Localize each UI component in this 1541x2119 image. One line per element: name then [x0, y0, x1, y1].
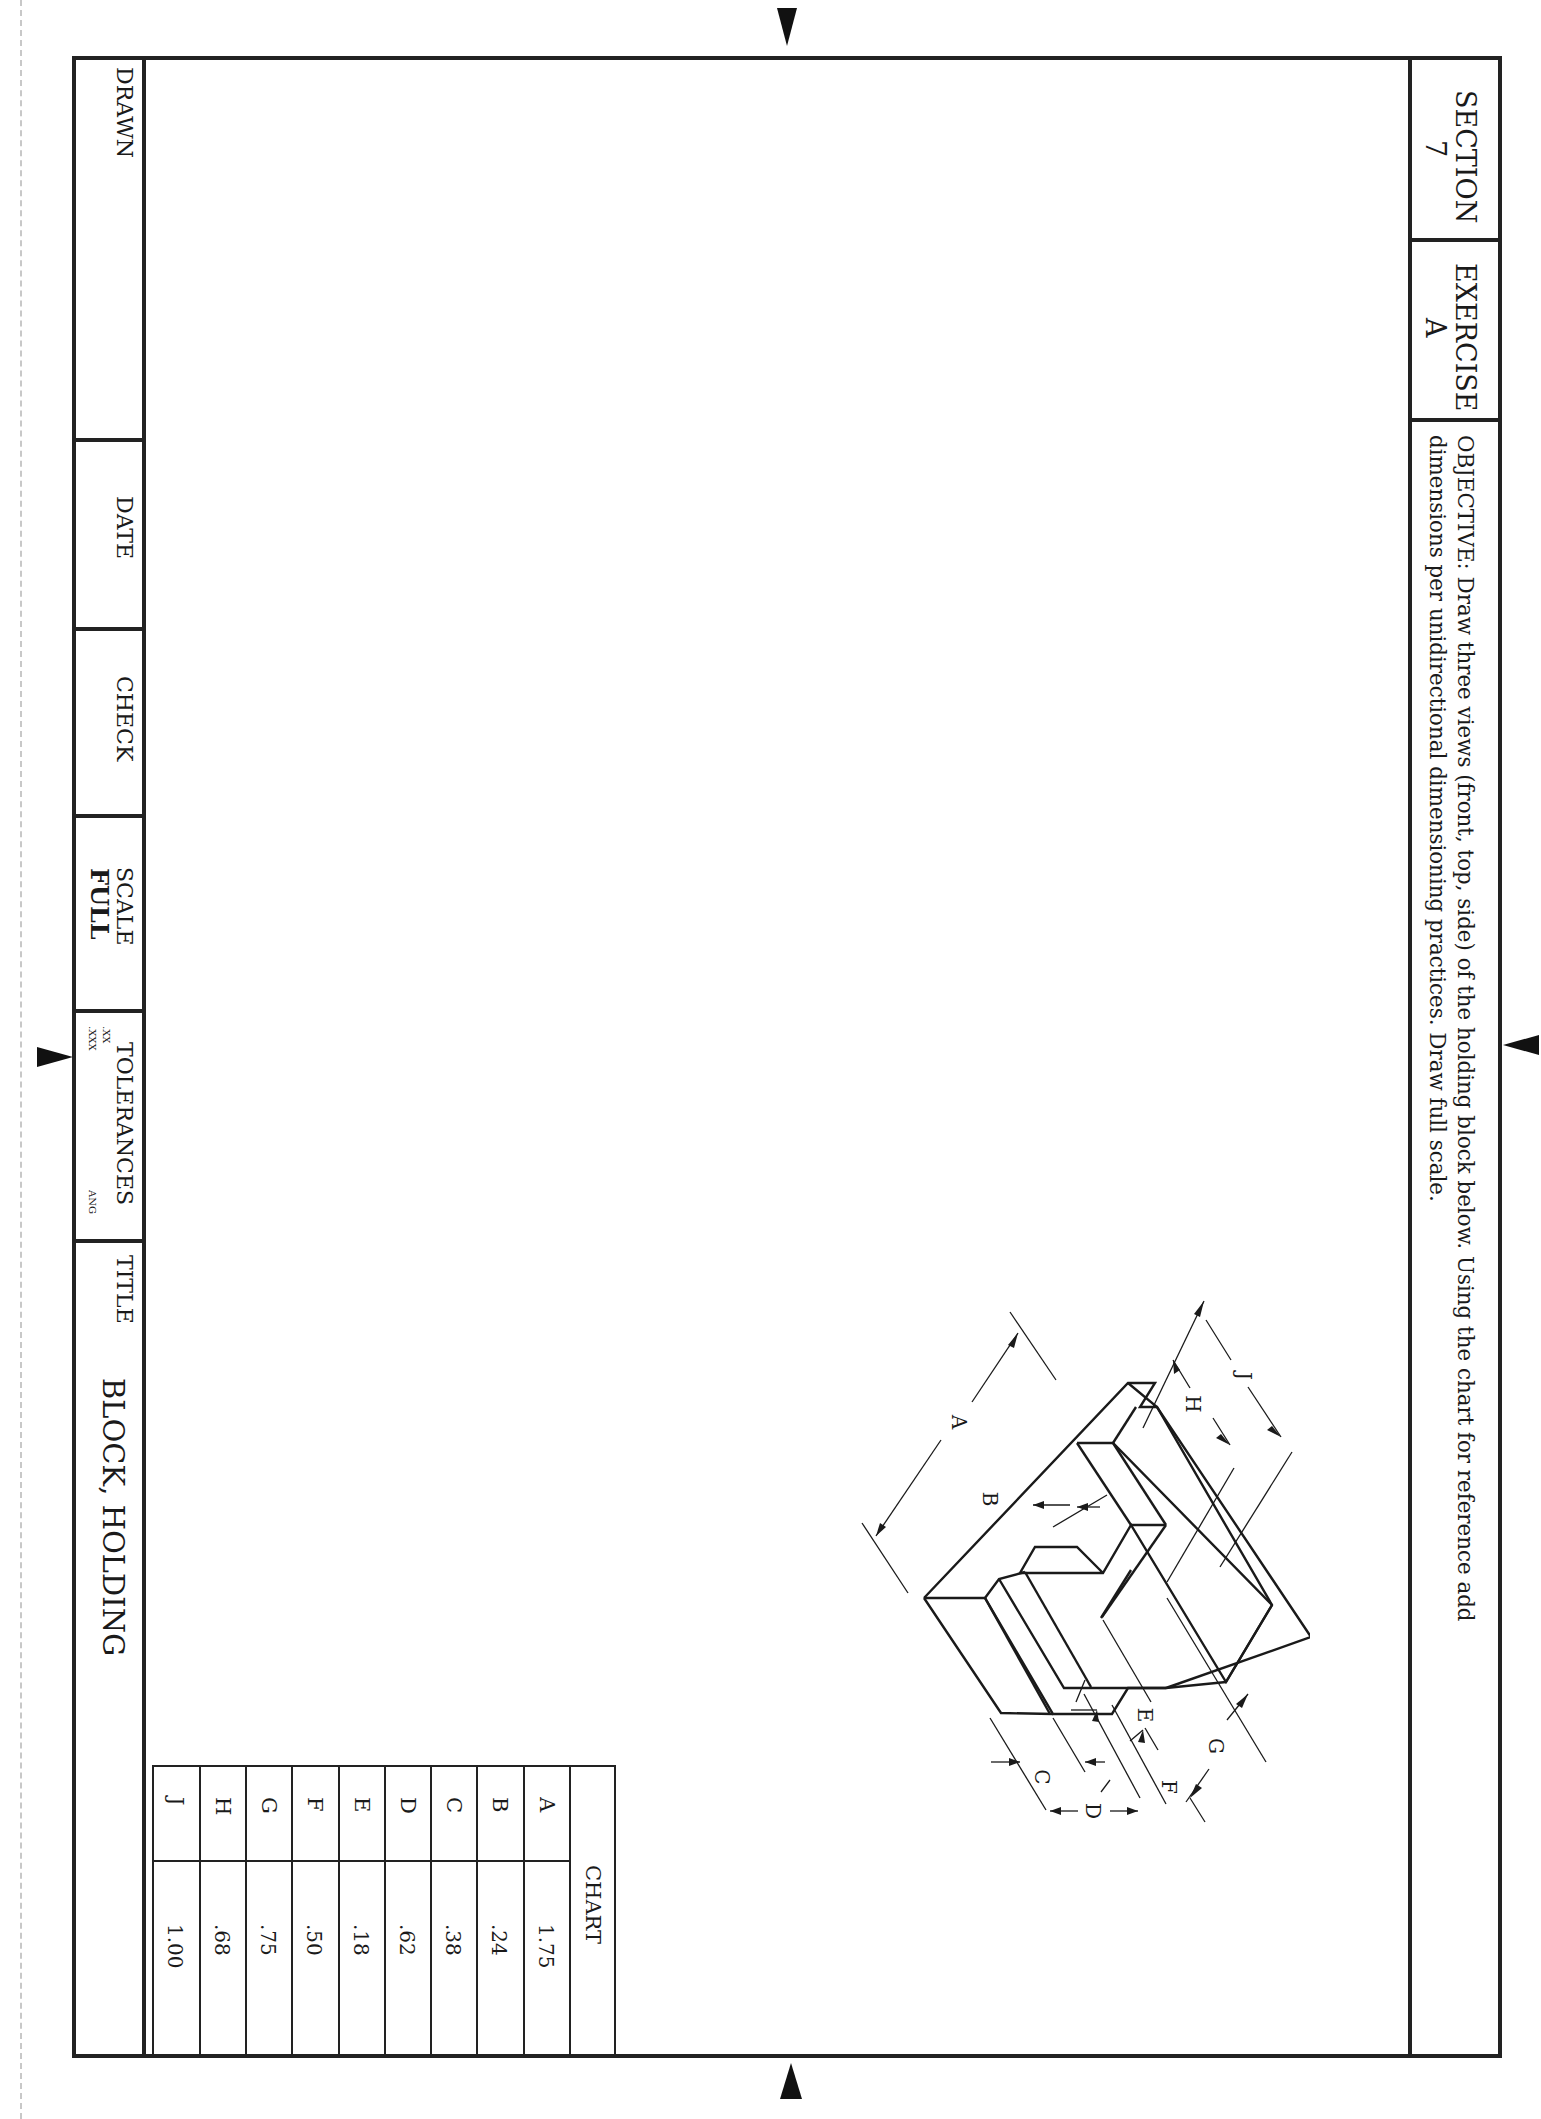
chart-row-key: J	[165, 1797, 186, 1805]
chart-row-value: 1.00	[165, 1924, 185, 1969]
tolerance-ang: ANG	[87, 1190, 97, 1214]
dim-label-J: J	[1232, 1370, 1256, 1380]
registration-mark-top	[777, 8, 797, 46]
dimension-label-group: A B C D E F G H J	[947, 1370, 1256, 1819]
chart-row-value: .18	[351, 1924, 371, 1956]
chart-row-key: F	[304, 1797, 325, 1812]
chart-row-key: D	[397, 1797, 418, 1814]
dim-label-G: G	[1204, 1738, 1228, 1754]
objective-text-line1: OBJECTIVE: Draw three views (front, top,…	[1455, 435, 1476, 1622]
tolerance-xxx: .XXX	[87, 1026, 97, 1051]
check-label: CHECK	[113, 676, 135, 761]
block-outline	[924, 1383, 1310, 1714]
chart-row-key: B	[489, 1797, 510, 1812]
dim-label-C: C	[1030, 1769, 1054, 1784]
chart-row-key: H	[212, 1797, 233, 1815]
chart-row-value: .62	[397, 1924, 417, 1956]
dim-label-F: F	[1157, 1780, 1181, 1794]
chart-row-value: .75	[258, 1924, 278, 1956]
title-value: BLOCK, HOLDING	[98, 1378, 127, 1656]
chart-row-value: .68	[212, 1924, 232, 1956]
chart-row-key: E	[351, 1797, 372, 1812]
section-value: 7	[1422, 140, 1449, 157]
chart-row-value: .50	[304, 1924, 324, 1956]
chart-title: CHART	[582, 1865, 603, 1944]
dim-label-B: B	[978, 1492, 1002, 1507]
scale-value: FULL	[87, 868, 111, 940]
registration-mark-left	[37, 1047, 73, 1067]
section-label: SECTION	[1452, 90, 1479, 223]
chart-row-key: A	[536, 1797, 557, 1812]
isometric-holding-block-drawing: A B C D E F G H J	[860, 1290, 1310, 1970]
chart-row-value: .24	[489, 1924, 509, 1956]
chart-row-value: .38	[443, 1924, 463, 1956]
registration-mark-right	[1503, 1035, 1539, 1055]
drawn-label: DRAWN	[113, 67, 135, 158]
chart-row-key: C	[443, 1797, 464, 1813]
date-label: DATE	[113, 496, 135, 559]
tolerance-xx: .XX	[101, 1026, 111, 1043]
chart-row-key: G	[258, 1797, 279, 1814]
registration-mark-bottom	[780, 2063, 802, 2099]
dim-label-E: E	[1133, 1708, 1157, 1723]
dim-label-D: D	[1081, 1803, 1105, 1819]
dim-label-A: A	[947, 1414, 971, 1430]
dim-label-H: H	[1181, 1395, 1205, 1412]
chart-row	[152, 1765, 198, 2056]
tolerances-label: TOLERANCES	[113, 1042, 135, 1205]
objective-text-line2: dimensions per unidirectional dimensioni…	[1427, 435, 1448, 1202]
perforation-line	[20, 0, 22, 2119]
exercise-value: A	[1422, 318, 1449, 338]
chart-row-value: 1.75	[536, 1924, 556, 1969]
scale-label: SCALE	[113, 867, 135, 945]
title-label: TITLE	[113, 1255, 135, 1324]
exercise-label: EXERCISE	[1452, 263, 1479, 412]
